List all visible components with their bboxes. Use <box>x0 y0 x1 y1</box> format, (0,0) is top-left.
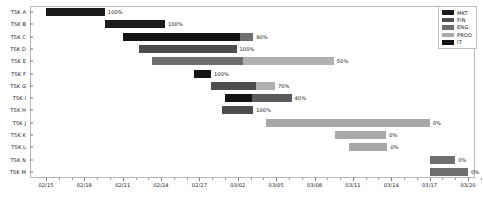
bar-progress-label: 100% <box>214 71 229 77</box>
y-axis-label-tsk-h: TSK H <box>10 107 26 113</box>
x-axis-tick-mark <box>353 178 354 181</box>
x-axis-minor-tick <box>110 178 111 180</box>
gantt-bar-tsk-l[interactable] <box>349 143 387 151</box>
x-axis-minor-tick <box>455 178 456 180</box>
x-axis-minor-tick <box>251 178 252 180</box>
gantt-bar-tsk-c[interactable] <box>123 33 253 41</box>
bar-remaining-segment <box>430 168 468 176</box>
legend-item-prod[interactable]: PROD <box>442 31 472 38</box>
bar-completed-segment <box>139 45 236 53</box>
x-axis-tick-mark <box>123 178 124 181</box>
y-axis-label-tsk-m: TSK M <box>10 169 26 175</box>
x-axis-minor-tick <box>263 178 264 180</box>
bar-progress-label: 100% <box>168 21 183 27</box>
y-axis-label-tsk-g: TSK G <box>10 83 26 89</box>
x-axis-minor-tick <box>59 178 60 180</box>
y-axis-tick-mark <box>30 98 33 99</box>
y-axis-label-tsk-j: TSK J <box>13 120 26 126</box>
legend-label: PROD <box>457 32 472 38</box>
bar-progress-label: 0% <box>471 169 479 175</box>
y-axis-labels: TSK ATSK BTSK CTSK DTSK ETSK FTSK GTSK I… <box>0 0 30 172</box>
legend-swatch-icon <box>442 10 454 15</box>
y-axis-label-tsk-d: TSK D <box>10 46 26 52</box>
y-axis-label-tsk-l: TSK L <box>11 144 26 150</box>
gantt-bar-tsk-n[interactable] <box>430 156 456 164</box>
legend-swatch-icon <box>442 25 454 30</box>
x-axis-tick-mark <box>199 178 200 181</box>
x-axis-minor-tick <box>136 178 137 180</box>
gantt-bar-tsk-d[interactable] <box>139 45 236 53</box>
gantt-bar-tsk-h[interactable] <box>222 106 253 114</box>
x-axis-minor-tick <box>212 178 213 180</box>
x-axis-tick-mark <box>315 178 316 181</box>
x-axis-tick-mark <box>391 178 392 181</box>
gantt-bar-tsk-e[interactable] <box>152 57 334 65</box>
bar-completed-segment <box>105 20 165 28</box>
bar-completed-segment <box>211 82 256 90</box>
x-axis-minor-tick <box>366 178 367 180</box>
x-axis-label-03-14: 03/14 <box>384 182 399 188</box>
gantt-bar-tsk-i[interactable] <box>225 94 291 102</box>
gantt-chart: TSK ATSK BTSK CTSK DTSK ETSK FTSK GTSK I… <box>0 0 483 200</box>
bar-progress-label: 0% <box>433 120 441 126</box>
x-axis-label-02-21: 02/21 <box>115 182 130 188</box>
x-axis-minor-tick <box>340 178 341 180</box>
x-axis-tick-mark <box>84 178 85 181</box>
x-axis-tick-mark <box>276 178 277 181</box>
gantt-bar-tsk-a[interactable] <box>46 8 105 16</box>
x-axis-minor-tick <box>174 178 175 180</box>
bar-remaining-segment <box>430 156 456 164</box>
y-axis-label-tsk-i: TSK I <box>13 95 26 101</box>
bar-progress-label: 40% <box>295 95 307 101</box>
bar-remaining-segment <box>266 119 430 127</box>
y-axis-tick-mark <box>30 12 33 13</box>
legend-swatch-icon <box>442 18 454 23</box>
bar-remaining-segment <box>243 57 334 65</box>
legend-label: IT <box>457 39 462 45</box>
y-axis-tick-mark <box>30 147 33 148</box>
legend-item-eng[interactable]: ENG <box>442 24 472 31</box>
gantt-bar-tsk-b[interactable] <box>105 20 165 28</box>
x-axis-label-03-02: 03/02 <box>230 182 245 188</box>
legend-label: MKT <box>457 10 468 16</box>
bar-completed-segment <box>225 94 252 102</box>
gantt-bar-tsk-j[interactable] <box>266 119 430 127</box>
y-axis-tick-mark <box>30 85 33 86</box>
x-axis-minor-tick <box>327 178 328 180</box>
bar-progress-label: 0% <box>389 132 397 138</box>
gantt-bar-tsk-m[interactable] <box>430 168 468 176</box>
x-axis-tick-mark <box>468 178 469 181</box>
bar-remaining-segment <box>349 143 387 151</box>
x-axis-label-02-15: 02/15 <box>38 182 53 188</box>
legend-item-it[interactable]: IT <box>442 39 472 46</box>
x-axis-minor-tick <box>442 178 443 180</box>
gantt-bar-tsk-f[interactable] <box>194 70 211 78</box>
y-axis-label-tsk-n: TSK N <box>10 157 26 163</box>
legend-label: FIN <box>457 17 466 23</box>
legend-label: ENG <box>457 24 468 30</box>
x-axis-minor-tick <box>417 178 418 180</box>
bar-remaining-segment <box>240 33 253 41</box>
legend-item-fin[interactable]: FIN <box>442 16 472 23</box>
x-axis-label-02-27: 02/27 <box>192 182 207 188</box>
legend-swatch-icon <box>442 33 454 38</box>
x-axis-minor-tick <box>404 178 405 180</box>
y-axis-label-tsk-e: TSK E <box>11 58 26 64</box>
y-axis-label-tsk-b: TSK B <box>11 21 26 27</box>
x-axis-tick-mark <box>430 178 431 181</box>
x-axis-label-02-24: 02/24 <box>153 182 168 188</box>
bar-progress-label: 0% <box>458 157 466 163</box>
y-axis-label-tsk-f: TSK F <box>11 71 26 77</box>
x-axis-label-03-05: 03/05 <box>269 182 284 188</box>
bar-remaining-segment <box>256 82 275 90</box>
x-axis-label-03-08: 03/08 <box>307 182 322 188</box>
y-axis-label-tsk-a: TSK A <box>11 9 26 15</box>
gantt-bar-tsk-k[interactable] <box>335 131 386 139</box>
x-axis-tick-mark <box>161 178 162 181</box>
gantt-bar-tsk-g[interactable] <box>211 82 275 90</box>
legend-item-mkt[interactable]: MKT <box>442 9 472 16</box>
bar-remaining-segment <box>335 131 386 139</box>
x-axis-minor-tick <box>302 178 303 180</box>
y-axis-tick-mark <box>30 36 33 37</box>
x-axis-label-03-17: 03/17 <box>422 182 437 188</box>
